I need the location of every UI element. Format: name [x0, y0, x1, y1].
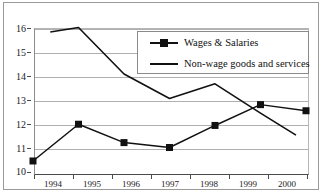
gridline-11 — [35, 149, 308, 150]
x-tick-label-2000: 2000 — [267, 179, 307, 189]
legend-label-wages: Wages & Salaries — [184, 37, 258, 48]
y-tick-mark-16 — [27, 28, 31, 29]
gridline-12 — [35, 125, 308, 126]
y-tick-label-16: 16 — [4, 24, 26, 34]
y-tick-mark-15 — [27, 52, 31, 53]
y-tick-mark-10 — [27, 172, 31, 173]
y-tick-mark-13 — [27, 100, 31, 101]
gridline-14 — [35, 77, 308, 78]
y-tick-label-10: 10 — [4, 167, 26, 177]
chart-legend: Wages & Salaries Non-wage goods and serv… — [137, 31, 309, 74]
x-tick-mark-2000 — [307, 175, 308, 179]
y-tick-label-15: 15 — [4, 48, 26, 58]
x-tick-label-1995: 1995 — [72, 179, 112, 189]
legend-key-square-marker-icon — [148, 36, 180, 50]
x-tick-label-1999: 1999 — [228, 179, 268, 189]
x-tick-label-1994: 1994 — [33, 179, 73, 189]
y-tick-label-14: 14 — [4, 72, 26, 82]
y-tick-mark-14 — [27, 76, 31, 77]
y-tick-label-12: 12 — [4, 120, 26, 130]
x-tick-label-1997: 1997 — [150, 179, 190, 189]
legend-label-nonwage: Non-wage goods and services — [184, 58, 310, 69]
legend-item-nonwage: Non-wage goods and services — [138, 53, 308, 74]
gridline-13 — [35, 101, 308, 102]
y-tick-mark-11 — [27, 148, 31, 149]
x-tick-label-1998: 1998 — [189, 179, 229, 189]
y-tick-label-11: 11 — [4, 144, 26, 154]
legend-key-plain-line-icon — [148, 57, 180, 71]
figure-frame: 16 15 14 13 12 11 10 1994 1995 1996 — [3, 2, 319, 190]
x-tick-label-1996: 1996 — [111, 179, 151, 189]
gridline-16 — [35, 29, 308, 30]
y-tick-mark-12 — [27, 124, 31, 125]
y-tick-label-13: 13 — [4, 96, 26, 106]
legend-item-wages: Wages & Salaries — [138, 32, 308, 53]
